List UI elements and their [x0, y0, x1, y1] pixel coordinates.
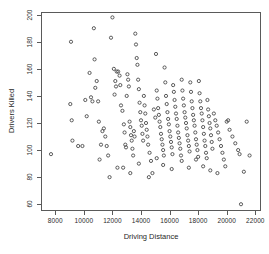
scatter-plot: 800010000120001400016000180002000022000 … — [0, 0, 269, 254]
y-tick-label: 120 — [26, 118, 33, 129]
y-tick — [37, 96, 41, 97]
x-tick-label: 16000 — [160, 217, 179, 224]
x-tick — [84, 211, 85, 215]
x-tick-label: 22000 — [246, 217, 265, 224]
y-tick — [37, 69, 41, 70]
y-tick — [37, 150, 41, 151]
x-tick-label: 8000 — [48, 217, 63, 224]
y-tick — [37, 177, 41, 178]
y-tick-label: 80 — [26, 174, 33, 181]
x-tick — [112, 211, 113, 215]
x-tick — [170, 211, 171, 215]
y-tick — [37, 15, 41, 16]
y-tick-label: 160 — [26, 63, 33, 74]
data-points-layer — [41, 12, 261, 211]
x-tick-label: 14000 — [132, 217, 151, 224]
x-tick — [141, 211, 142, 215]
y-tick — [37, 42, 41, 43]
x-tick-label: 12000 — [103, 217, 122, 224]
y-tick — [37, 123, 41, 124]
y-tick-label: 140 — [26, 90, 33, 101]
x-axis-label: Driving Distance — [124, 232, 179, 241]
x-tick-label: 10000 — [75, 217, 94, 224]
x-tick-label: 18000 — [189, 217, 208, 224]
y-axis-label: Drivers Killed — [7, 89, 16, 133]
data-points — [41, 12, 261, 211]
x-tick — [227, 211, 228, 215]
y-tick-label: 200 — [26, 9, 33, 20]
y-tick-label: 180 — [26, 36, 33, 47]
y-tick-label: 100 — [26, 145, 33, 156]
y-tick — [37, 204, 41, 205]
x-tick — [198, 211, 199, 215]
y-tick-label: 60 — [26, 201, 33, 208]
x-tick — [55, 211, 56, 215]
x-tick — [255, 211, 256, 215]
x-tick-label: 20000 — [217, 217, 236, 224]
